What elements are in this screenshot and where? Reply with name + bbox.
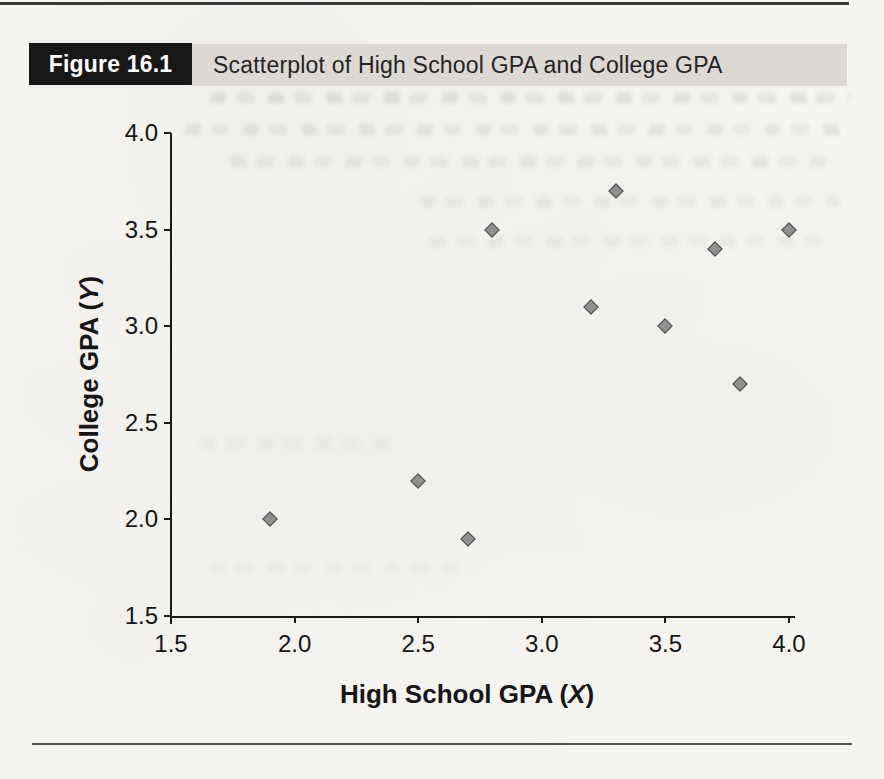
figure-title: Scatterplot of High School GPA and Colle…	[213, 52, 723, 79]
x-axis-line	[171, 616, 795, 618]
y-tick-label: 3.5	[104, 218, 158, 242]
top-rule	[0, 2, 849, 5]
x-tick-mark	[788, 616, 790, 623]
bleed-through-row	[185, 124, 850, 135]
y-tick-label: 2.0	[104, 507, 158, 531]
x-axis-title-prefix: High School GPA (	[340, 679, 568, 709]
x-tick-label: 4.0	[759, 632, 819, 656]
y-tick-mark	[164, 325, 171, 327]
bleed-through-row	[230, 156, 830, 167]
x-axis-title: High School GPA (X)	[340, 679, 594, 710]
data-point	[583, 299, 599, 315]
figure-number-text: Figure 16.1	[49, 51, 173, 78]
x-tick-label: 3.5	[635, 632, 695, 656]
y-axis-title-suffix: )	[74, 276, 104, 285]
y-axis-variable: Y	[74, 284, 104, 301]
bottom-rule	[32, 743, 852, 745]
data-point	[658, 318, 674, 334]
x-tick-mark	[664, 616, 666, 623]
y-tick-mark	[164, 422, 171, 424]
bleed-through-row	[420, 196, 840, 207]
bleed-through-row	[210, 562, 470, 573]
y-tick-mark	[164, 518, 171, 520]
bleed-through-row	[200, 438, 400, 449]
y-axis-title: College GPA (Y)	[74, 276, 105, 472]
y-tick-label: 2.5	[104, 411, 158, 435]
data-point	[410, 473, 426, 489]
x-tick-label: 2.0	[265, 632, 325, 656]
y-tick-label: 4.0	[104, 121, 158, 145]
x-tick-mark	[417, 616, 419, 623]
y-tick-label: 1.5	[104, 604, 158, 628]
data-point	[732, 376, 748, 392]
y-axis-title-prefix: College GPA (	[74, 302, 104, 472]
x-axis-variable: X	[568, 679, 585, 709]
x-tick-mark	[294, 616, 296, 623]
figure-number-label: Figure 16.1	[29, 43, 192, 85]
y-tick-label: 3.0	[104, 314, 158, 338]
y-axis-line	[170, 133, 172, 624]
x-tick-label: 1.5	[141, 632, 201, 656]
y-tick-mark	[164, 132, 171, 134]
x-tick-mark	[541, 616, 543, 623]
figure-title-band: Scatterplot of High School GPA and Colle…	[192, 44, 847, 86]
x-tick-label: 2.5	[388, 632, 448, 656]
bleed-through-row	[210, 92, 850, 103]
x-axis-title-suffix: )	[585, 679, 594, 709]
x-tick-mark	[170, 616, 172, 623]
y-tick-mark	[164, 229, 171, 231]
x-tick-label: 3.0	[512, 632, 572, 656]
data-point	[460, 531, 476, 547]
data-point	[262, 512, 278, 528]
textbook-page-scan: Figure 16.1 Scatterplot of High School G…	[0, 0, 884, 779]
bleed-through-row	[430, 236, 830, 247]
